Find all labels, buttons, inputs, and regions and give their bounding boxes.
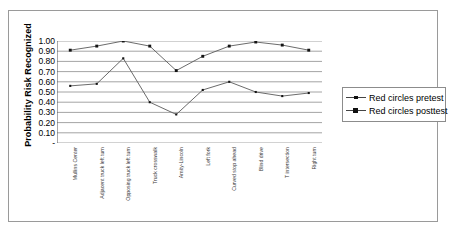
legend-marker-posttest-icon — [346, 105, 366, 116]
data-point-marker — [175, 113, 177, 115]
series-line — [70, 41, 309, 71]
x-category-label: T intersection — [284, 147, 290, 178]
x-category-label: Adjacent truck left turn — [99, 147, 105, 199]
y-tick-label: 0.90 — [38, 47, 55, 56]
data-point-marker — [95, 45, 98, 48]
data-point-marker — [149, 101, 151, 103]
y-tick-label: 0.10 — [38, 129, 55, 138]
data-point-marker — [175, 69, 178, 72]
x-category-label: Amity-Lincoln — [178, 147, 184, 178]
legend-marker-pretest-icon — [346, 92, 366, 103]
x-category-label: Right turn — [311, 147, 317, 170]
series-lines — [70, 41, 309, 114]
x-axis-category-labels: Mullins CenterAdjacent truck left turnOp… — [57, 147, 322, 219]
y-tick-label: 0.40 — [38, 98, 55, 107]
y-tick-label: 0.70 — [38, 67, 55, 76]
x-category-label: Mullins Center — [72, 147, 78, 180]
y-tick-label: 0.50 — [38, 88, 55, 97]
data-point-marker — [69, 49, 72, 52]
data-point-marker — [228, 81, 230, 83]
data-point-marker — [201, 55, 204, 58]
data-point-marker — [281, 44, 284, 47]
data-point-marker — [307, 49, 310, 52]
data-point-marker — [308, 92, 310, 94]
y-axis-tick-labels: 1.000.900.800.700.600.500.400.300.200.10… — [29, 41, 55, 143]
gridlines — [57, 41, 322, 143]
legend-item-pretest: Red circles pretest — [346, 91, 441, 104]
y-tick-label: 1.00 — [38, 37, 55, 46]
series-markers — [69, 41, 310, 115]
x-category-label: Opposing truck left turn — [125, 147, 131, 201]
legend-label-pretest: Red circles pretest — [366, 93, 444, 103]
y-tick-label: 0.80 — [38, 57, 55, 66]
data-point-marker — [148, 45, 151, 48]
data-point-marker — [122, 57, 124, 59]
data-point-marker — [202, 89, 204, 91]
plot-area — [57, 41, 322, 143]
x-category-label: Blind drive — [258, 147, 264, 171]
y-tick-label: 0.30 — [38, 108, 55, 117]
x-category-label: Left fork — [205, 147, 211, 166]
plot-svg — [57, 41, 322, 143]
x-category-label: Curved stop ahead — [231, 147, 237, 191]
data-point-marker — [254, 41, 257, 43]
data-point-marker — [69, 85, 71, 87]
data-point-marker — [228, 45, 231, 48]
legend-label-posttest: Red circles posttest — [366, 106, 448, 116]
data-point-marker — [96, 83, 98, 85]
x-category-label: Truck crosswalk — [152, 147, 158, 184]
data-point-marker — [122, 41, 125, 42]
y-tick-label: 0.20 — [38, 118, 55, 127]
legend-item-posttest: Red circles posttest — [346, 104, 441, 117]
data-point-marker — [281, 95, 283, 97]
chart-legend: Red circles pretest Red circles posttest — [342, 87, 446, 122]
y-tick-label: - — [52, 139, 55, 148]
data-point-marker — [255, 91, 257, 93]
series-line — [70, 58, 309, 114]
y-tick-label: 0.60 — [38, 78, 55, 87]
chart-figure: Probability Risk Recognized 1.000.900.80… — [8, 10, 438, 222]
